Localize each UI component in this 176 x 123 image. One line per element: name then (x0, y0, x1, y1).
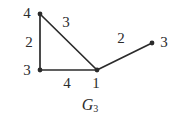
vertex-label-v3-left: 3 (23, 63, 31, 78)
vertex-label-v3-right: 3 (160, 35, 168, 50)
vertex-dot-v3r (150, 41, 155, 46)
graph-figure: 4 3 1 3 2 3 4 2 G3 (0, 0, 176, 123)
edge-label-v4-v1: 3 (62, 15, 70, 30)
figure-caption-base: G (82, 96, 94, 113)
vertex-dot-v1 (95, 68, 100, 73)
vertex-dot-v4 (38, 12, 43, 17)
vertex-dot-v3l (38, 68, 43, 73)
edge-group (40, 14, 152, 70)
vertex-group (38, 12, 155, 73)
edge-label-v4-v3l: 2 (25, 35, 33, 50)
edge-label-v3l-v1: 4 (63, 76, 71, 91)
figure-caption-subscript: 3 (93, 103, 98, 114)
vertex-label-v4: 4 (23, 6, 31, 21)
figure-caption: G3 (82, 96, 99, 114)
edge-label-v1-v3r: 2 (117, 31, 125, 46)
vertex-label-v1: 1 (92, 76, 100, 91)
edge-v1-v3r (97, 43, 152, 70)
